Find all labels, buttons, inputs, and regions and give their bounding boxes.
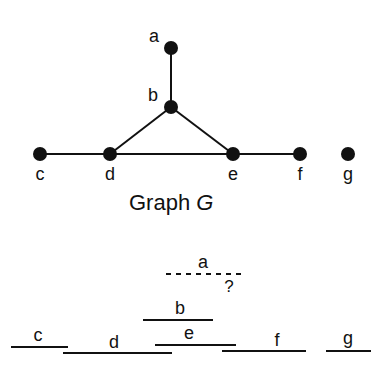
node-label-a: a: [149, 26, 160, 46]
edge-b-d: [110, 107, 171, 154]
interval-label-e: e: [184, 323, 194, 343]
node-e: [226, 147, 240, 161]
interval-label-a: a: [198, 252, 209, 272]
node-label-e: e: [228, 164, 238, 184]
node-f: [293, 147, 307, 161]
interval-label-c: c: [34, 325, 43, 345]
graph-node-labels: abcdefg: [36, 26, 354, 184]
graph-caption: Graph G: [129, 190, 213, 215]
node-b: [164, 100, 178, 114]
node-label-c: c: [36, 164, 45, 184]
graph-nodes: [33, 41, 355, 161]
node-label-g: g: [343, 164, 353, 184]
node-g: [341, 147, 355, 161]
node-label-b: b: [148, 85, 158, 105]
edge-b-e: [171, 107, 233, 154]
interval-label-d: d: [109, 332, 119, 352]
interval-label-f: f: [274, 330, 280, 350]
graph-caption-text: Graph: [129, 190, 196, 215]
node-a: [164, 41, 178, 55]
node-label-d: d: [105, 164, 115, 184]
interval-label-b: b: [175, 298, 185, 318]
node-d: [103, 147, 117, 161]
diagram-canvas: abcdefg Graph G abcdefg ?: [0, 0, 390, 371]
node-c: [33, 147, 47, 161]
interval-representation: abcdefg: [11, 252, 371, 353]
node-label-f: f: [297, 164, 303, 184]
question-mark: ?: [224, 277, 233, 296]
graph-caption-variable: G: [196, 190, 213, 215]
interval-label-g: g: [343, 328, 353, 348]
